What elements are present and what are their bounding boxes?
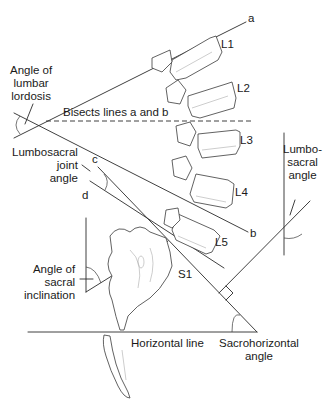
label-line-d: d [82,189,88,202]
vertebra-L3 [176,122,240,158]
arc-lumbar-lordosis [16,116,20,134]
label-sacrohorizontal-angle: Sacrohorizontal angle [219,337,299,363]
leader-lumbosacral [290,200,295,215]
label-S1: S1 [178,268,192,281]
coccyx [103,335,130,398]
arc-sacrohorizontal [232,315,240,332]
label-horizontal-line: Horizontal line [131,337,204,350]
label-L4: L4 [235,186,248,199]
perpendicular-line [219,201,310,293]
label-lumbosacral-angle: Lumbo- sacral angle [283,143,322,182]
label-angle-sacral-inclination: Angle of sacral inclination [24,263,75,302]
label-line-b: b [250,227,256,240]
label-line-a: a [248,12,254,25]
label-line-c: c [92,153,98,166]
leader-joint [82,165,90,171]
vertebra-L5 [164,208,220,254]
label-bisects: Bisects lines a and b [63,106,168,119]
label-lumbosacral-joint-angle: Lumbosacral joint angle [12,146,78,185]
label-L1: L1 [221,38,234,51]
right-angle-marker [226,286,233,300]
vertebra-L4 [172,156,234,208]
label-L2: L2 [237,82,250,95]
label-L3: L3 [240,134,253,147]
label-L5: L5 [215,236,228,249]
vertebra-L1 [152,36,222,80]
sacrum [108,227,172,330]
arc-sacral-inclination [86,267,101,283]
vertebra-L2 [166,80,236,118]
label-angle-lumbar-lordosis: Angle of lumbar lordosis [10,64,52,103]
arc-lumbosacral [284,234,302,239]
